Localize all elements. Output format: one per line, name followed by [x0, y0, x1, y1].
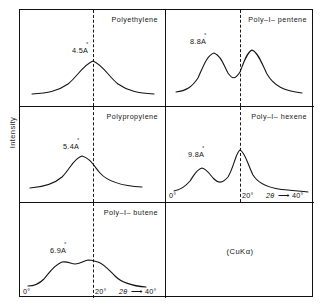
xrd-figure: Intensity Polyethylene 4.5°A Poly–I– pen… [0, 0, 331, 307]
radiation-source-label: (CuKα) [166, 247, 314, 256]
axis-arrow-icon: ⟶ [131, 287, 142, 296]
axis-tick-mid: 20° [242, 191, 254, 200]
diffraction-curve [20, 203, 166, 298]
panel-poly-1-hexene: Poly–I– hexene 9.8°A 0° 20° 2θ ⟶ 40° [166, 107, 314, 203]
panel-poly-1-butene: Poly–I– butene 6.9°A 0° 20° 2θ ⟶ 40° [20, 203, 166, 298]
axis-tick-end: 40° [292, 191, 304, 200]
panel-poly-1-pentene: Poly–I– pentene 8.8°A [166, 10, 314, 107]
panel-grid: Polyethylene 4.5°A Poly–I– pentene 8.8°A… [19, 9, 313, 297]
axis-variable: 2θ [119, 287, 128, 296]
diffraction-curve [20, 107, 166, 203]
diffraction-curve [166, 10, 314, 107]
panel-radiation-note: (CuKα) [166, 203, 314, 298]
diffraction-curve [20, 10, 166, 107]
axis-tick-mid: 20° [95, 287, 107, 296]
y-axis-label: Intensity [8, 98, 17, 168]
axis-tick-start: 0° [23, 287, 30, 296]
panel-polypropylene: Polypropylene 5.4°A [20, 107, 166, 203]
diffraction-curve [166, 107, 314, 203]
axis-tick-start: 0° [169, 191, 176, 200]
panel-polyethylene: Polyethylene 4.5°A [20, 10, 166, 107]
axis-variable: 2θ [266, 191, 275, 200]
axis-arrow-icon: ⟶ [278, 191, 289, 200]
axis-tick-end: 40° [145, 287, 157, 296]
